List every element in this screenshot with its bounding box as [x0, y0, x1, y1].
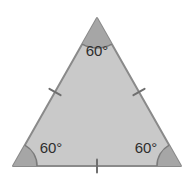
- equilateral-triangle-figure: 60° 60° 60°: [0, 0, 195, 182]
- angle-label-bottom-left: 60°: [40, 139, 63, 156]
- geometry-figure-canvas: 60° 60° 60°: [0, 0, 195, 182]
- angle-label-apex: 60°: [86, 42, 109, 59]
- angle-label-bottom-right: 60°: [135, 139, 158, 156]
